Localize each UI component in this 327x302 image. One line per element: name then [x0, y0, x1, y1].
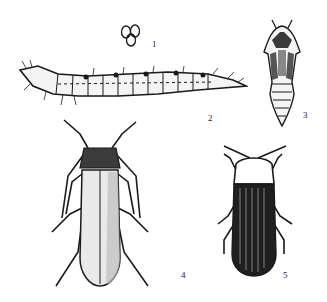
- pupa-figure: [258, 18, 308, 130]
- eggs-figure: [118, 24, 148, 50]
- eggs-icon: [118, 24, 148, 50]
- label-3: 3: [303, 110, 308, 120]
- beetle-5-icon: [210, 144, 300, 284]
- pupa-icon: [258, 18, 308, 130]
- larva-figure: [18, 58, 248, 108]
- label-2: 2: [208, 113, 213, 123]
- label-1: 1: [152, 39, 157, 49]
- label-5: 5: [283, 270, 288, 280]
- beetle-4-figure: [36, 118, 166, 293]
- beetle-5-figure: [210, 144, 300, 284]
- larva-icon: [18, 58, 248, 108]
- beetle-4-icon: [36, 118, 166, 293]
- label-4: 4: [181, 270, 186, 280]
